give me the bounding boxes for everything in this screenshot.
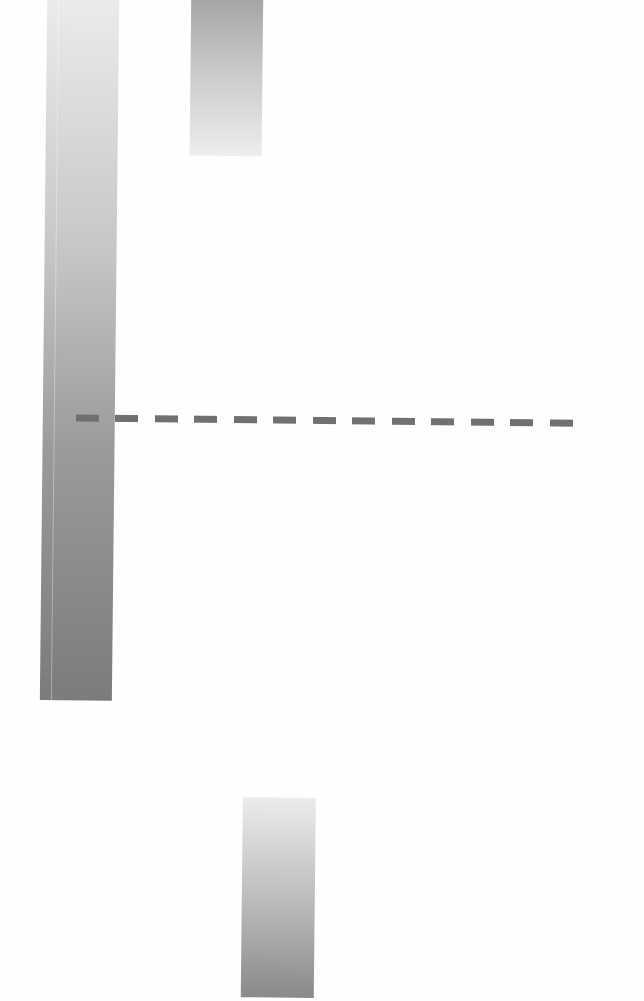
chart-canvas (0, 0, 644, 998)
reference-line-dashed (76, 414, 576, 426)
bar-short-top (190, 0, 264, 156)
bar-bottom (241, 797, 316, 998)
bar-tall-left (40, 0, 119, 701)
